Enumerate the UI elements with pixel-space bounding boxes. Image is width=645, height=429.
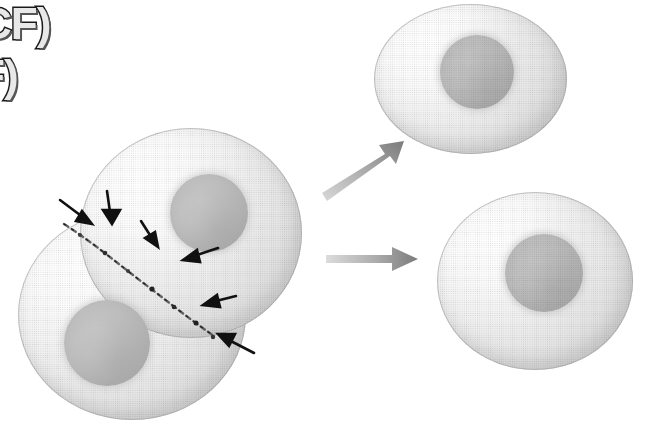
transition-arrow-lower [326,247,418,271]
nucleus-lower [64,300,150,386]
cell-division-figure: CF) F) [0,0,645,429]
daughter-cell-top [374,4,567,154]
dividing-cell-pair [18,128,303,420]
caption-line-2: F) [0,54,18,98]
nucleus-upper [170,174,248,252]
nucleus-daughter-bottom [505,234,583,312]
transition-arrow-upper [322,141,404,201]
caption-line-1: CF) [0,2,50,46]
nucleus-daughter-top [440,35,514,109]
daughter-cell-bottom [437,192,633,370]
